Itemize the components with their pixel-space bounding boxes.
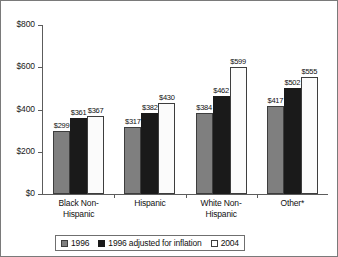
bar-group: $299$361$367	[43, 25, 114, 194]
x-axis-group-separator	[186, 194, 187, 198]
x-axis-group-separator	[114, 194, 115, 198]
bar-value-label: $555	[301, 67, 317, 76]
bar[interactable]	[267, 106, 284, 194]
bar[interactable]	[53, 131, 70, 194]
bar[interactable]	[301, 77, 318, 194]
bar-slot: $502	[284, 25, 301, 194]
legend-swatch-2004	[211, 240, 218, 247]
bar-slot: $430	[158, 25, 175, 194]
bar-value-label: $417	[267, 96, 283, 105]
bar-slot: $367	[87, 25, 104, 194]
chart-figure: $0$200$400$600$800 $299$361$367$317$382$…	[0, 0, 338, 257]
x-axis-category-label-line: Other*	[257, 198, 328, 209]
bar-group: $417$502$555	[257, 25, 328, 194]
y-axis-tick-label: $800	[16, 19, 35, 29]
y-axis-tick-mark	[38, 25, 42, 26]
bar[interactable]	[230, 67, 247, 194]
bar-value-label: $462	[213, 86, 229, 95]
x-axis-category-label: Black Non-Hispanic	[43, 198, 114, 219]
legend-item[interactable]: 1996	[61, 238, 89, 248]
legend-item-label: 1996	[71, 238, 89, 248]
bar-slot: $317	[124, 25, 141, 194]
bar-slot: $361	[70, 25, 87, 194]
x-axis-category-labels: Black Non-HispanicHispanicWhite Non-Hisp…	[43, 198, 328, 219]
bar-slot: $299	[53, 25, 70, 194]
x-axis-category-label-line: White Non-	[186, 198, 257, 209]
bar-group: $317$382$430	[114, 25, 185, 194]
y-axis-tick-mark	[38, 110, 42, 111]
legend-item-label: 2004	[221, 238, 239, 248]
y-axis-tick-label: $400	[16, 104, 35, 114]
legend-swatch-1996	[61, 240, 68, 247]
x-axis-category-label-line: Hispanic	[186, 209, 257, 220]
x-axis-category-label-line: Black Non-	[43, 198, 114, 209]
bar-slot: $384	[196, 25, 213, 194]
x-axis-group-separator	[257, 194, 258, 198]
bar[interactable]	[70, 118, 87, 194]
bar-group-bars: $299$361$367	[43, 25, 114, 194]
y-axis-tick-mark	[38, 67, 42, 68]
bar-value-label: $367	[88, 106, 104, 115]
bar-slot: $417	[267, 25, 284, 194]
legend-item[interactable]: 2004	[211, 238, 239, 248]
y-axis-tick-mark	[38, 152, 42, 153]
chart-legend: 19961996 adjusted for inflation2004	[55, 235, 245, 251]
bar-value-label: $382	[142, 103, 158, 112]
bar-group: $384$462$599	[186, 25, 257, 194]
bar-groups: $299$361$367$317$382$430$384$462$599$417…	[43, 25, 328, 194]
bar-slot: $599	[230, 25, 247, 194]
bar[interactable]	[124, 127, 141, 194]
x-axis-category-label-line: Hispanic	[114, 198, 185, 209]
bar-slot: $382	[141, 25, 158, 194]
bar-group-bars: $417$502$555	[257, 25, 328, 194]
x-axis-category-label: Hispanic	[114, 198, 185, 219]
bar-value-label: $430	[159, 93, 175, 102]
bar-value-label: $299	[54, 121, 70, 130]
bar-slot: $555	[301, 25, 318, 194]
y-axis-tick-label: $200	[16, 146, 35, 156]
bar-value-label: $317	[125, 117, 141, 126]
bar[interactable]	[196, 113, 213, 194]
bar-slot: $462	[213, 25, 230, 194]
bar[interactable]	[284, 88, 301, 194]
y-axis-tick-label: $600	[16, 61, 35, 71]
legend-swatch-1996-adjusted	[98, 240, 105, 247]
bar[interactable]	[213, 96, 230, 194]
bar[interactable]	[158, 103, 175, 194]
x-axis-category-label-line: Hispanic	[43, 209, 114, 220]
bar-group-bars: $384$462$599	[186, 25, 257, 194]
y-axis-tick-label: $0	[26, 188, 35, 198]
x-axis-category-label: Other*	[257, 198, 328, 219]
bar-value-label: $502	[284, 78, 300, 87]
bar-group-bars: $317$382$430	[114, 25, 185, 194]
x-axis-category-label: White Non-Hispanic	[186, 198, 257, 219]
legend-item-label: 1996 adjusted for inflation	[108, 238, 201, 248]
bar-value-label: $361	[71, 108, 87, 117]
bar[interactable]	[87, 116, 104, 194]
bar-value-label: $599	[230, 57, 246, 66]
y-axis-tick-mark	[38, 194, 42, 195]
legend-item[interactable]: 1996 adjusted for inflation	[98, 238, 201, 248]
bar[interactable]	[141, 113, 158, 194]
bar-value-label: $384	[196, 103, 212, 112]
